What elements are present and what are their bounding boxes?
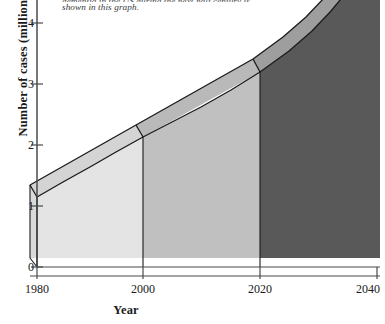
y-tick-label-4: 4 <box>14 16 34 31</box>
y-tick-label-1: 1 <box>14 199 34 214</box>
x-tick-label-2000: 2000 <box>120 282 166 297</box>
x-tick-label-1980: 1980 <box>14 282 60 297</box>
left-side-face <box>30 185 37 267</box>
bottom-depth-strip <box>30 258 380 267</box>
x-axis-title: Year <box>0 303 252 318</box>
y-tick-label-2: 2 <box>14 138 34 153</box>
y-tick-label-3: 3 <box>14 77 34 92</box>
y-tick-label-0: 0 <box>14 260 34 275</box>
x-tick-label-2040: 2040 <box>356 282 385 297</box>
x-tick-label-2020: 2020 <box>237 282 283 297</box>
